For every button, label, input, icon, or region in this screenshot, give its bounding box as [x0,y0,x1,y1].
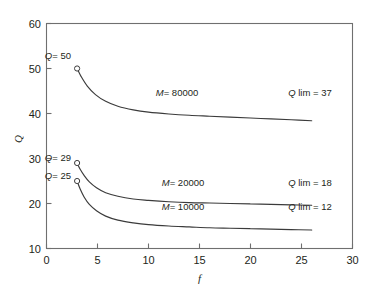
y-tick-label-60: 60 [29,18,41,30]
annotation-m20000: M= 20000 [162,177,205,188]
chart-figure: 60 50 40 30 20 10 0 5 10 15 20 25 30 f Q… [0,0,375,295]
x-tick-label-5: 5 [94,254,100,266]
x-tick-label-0: 0 [43,254,49,266]
plot-frame [47,24,353,249]
annotation-q50: Q= 50 [45,50,71,61]
x-tick-label-20: 20 [244,254,256,266]
x-tick-label-15: 15 [193,254,205,266]
y-tick-label-50: 50 [29,63,41,75]
annotation-qlim-12: Q lim = 12 [288,201,332,212]
annotation-qlim-18: Q lim = 18 [288,177,332,188]
annotation-qlim-37: Q lim = 37 [288,87,332,98]
annotation-q25: Q= 25 [45,170,71,181]
x-axis-ticks [47,244,353,249]
y-axis-title: Q [12,135,24,143]
chart-plot: 60 50 40 30 20 10 0 5 10 15 20 25 30 f Q… [0,0,375,295]
x-tick-label-10: 10 [142,254,154,266]
start-marker-q50 [75,66,80,71]
annotation-q29: Q= 29 [45,152,71,163]
y-tick-label-10: 10 [29,243,41,255]
annotation-m10000: M= 10000 [162,201,205,212]
x-tick-label-30: 30 [346,254,358,266]
x-tick-label-25: 25 [295,254,307,266]
y-tick-label-40: 40 [29,108,41,120]
y-tick-label-30: 30 [29,153,41,165]
x-axis-title: f [198,272,203,284]
start-marker-q29 [75,160,80,165]
annotation-m80000: M= 80000 [156,87,199,98]
y-tick-label-20: 20 [29,198,41,210]
start-marker-q25 [75,178,80,183]
